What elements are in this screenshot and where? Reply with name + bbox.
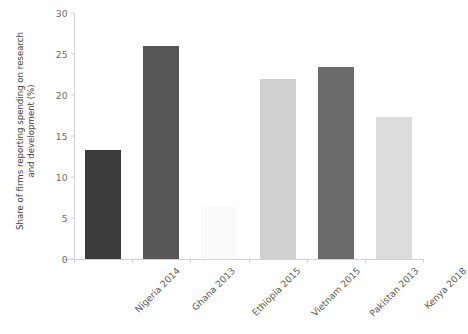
x-axis-tick-mark	[74, 259, 75, 263]
x-axis-tick-label: Kenya 2018	[422, 265, 468, 311]
y-axis-tick-label: 5	[62, 213, 68, 224]
y-axis-tick: 25	[56, 49, 74, 60]
y-axis-tick: 30	[56, 8, 74, 19]
bar	[201, 207, 237, 259]
y-axis-tick: 10	[56, 172, 74, 183]
x-axis-tick-label: Pakistan 2013	[367, 265, 421, 319]
y-axis-tick-label: 25	[56, 49, 68, 60]
y-axis-tick-label: 20	[56, 90, 68, 101]
y-axis-title: Share of firms reporting spending on res…	[11, 0, 41, 262]
bar	[85, 150, 121, 259]
y-axis-tick-label: 30	[56, 8, 68, 19]
y-axis-tick-label: 10	[56, 172, 68, 183]
bar	[260, 79, 296, 259]
x-axis-tick-mark	[423, 259, 424, 263]
y-axis-tick-label: 0	[62, 254, 68, 265]
x-axis-tick-mark	[365, 259, 366, 263]
y-axis-tick: 5	[62, 213, 74, 224]
x-axis-labels: Nigeria 2014Ghana 2013Ethiopia 2015Vietn…	[74, 259, 423, 334]
y-axis-title-line-2: and development (%)	[26, 84, 38, 177]
x-axis-tick-label: Nigeria 2014	[132, 265, 182, 315]
y-axis-tick: 15	[56, 131, 74, 142]
bar	[318, 67, 354, 259]
x-axis-tick-label: Ethiopia 2015	[250, 265, 303, 318]
y-axis-tick: 20	[56, 90, 74, 101]
y-axis-title-line-1: Share of firms reporting spending on res…	[15, 32, 27, 230]
x-axis-tick-label: Ghana 2013	[190, 265, 238, 313]
y-axis-tick: 0	[62, 254, 74, 265]
x-axis-tick-mark	[190, 259, 191, 263]
bars-layer	[74, 13, 423, 259]
x-axis-tick-mark	[132, 259, 133, 263]
bar	[143, 46, 179, 259]
bar	[376, 117, 412, 259]
x-axis-tick-mark	[249, 259, 250, 263]
y-axis-tick-label: 15	[56, 131, 68, 142]
x-axis-tick-mark	[307, 259, 308, 263]
x-axis-tick-label: Vietnam 2015	[309, 265, 362, 318]
clipped-top-artifact	[74, 0, 194, 4]
